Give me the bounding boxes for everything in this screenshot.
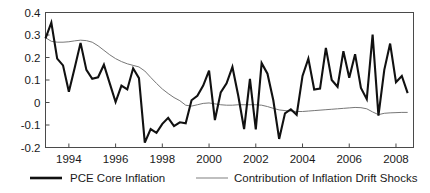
y-tick-label-3: 0.1 [25,74,41,86]
legend: PCE Core Inflation Contribution of Infla… [30,172,418,184]
inflation-line-chart: 0.40.30.20.10-0.1-0.2 199419961998200020… [0,0,430,193]
y-tick-label-0: 0.4 [25,7,42,19]
x-axis-labels: 19941996199820002002200420062008 [56,153,409,165]
y-axis-labels: 0.40.30.20.10-0.1-0.2 [21,7,41,154]
x-tick-label-0: 1994 [56,153,82,165]
y-tick-label-2: 0.2 [25,52,41,64]
y-tick-label-1: 0.3 [25,29,41,41]
plot-frame [46,13,414,148]
x-axis-ticks [69,144,396,148]
y-tick-label-5: -0.1 [21,119,41,131]
x-tick-label-3: 2000 [196,153,222,165]
x-tick-label-2: 1998 [150,153,176,165]
x-tick-label-5: 2004 [290,153,316,165]
y-tick-label-4: 0 [34,97,40,109]
x-tick-label-1: 1996 [103,153,129,165]
x-tick-label-4: 2002 [243,153,269,165]
series-line-inflation-drift-shocks [46,38,408,115]
legend-label-inflation-drift-shocks: Contribution of Inflation Drift Shocks [234,172,418,184]
series-line-pce-core-inflation [46,23,408,143]
x-tick-label-6: 2006 [336,153,362,165]
y-tick-label-6: -0.2 [21,142,41,154]
x-tick-label-7: 2008 [383,153,409,165]
legend-label-pce-core-inflation: PCE Core Inflation [70,172,165,184]
